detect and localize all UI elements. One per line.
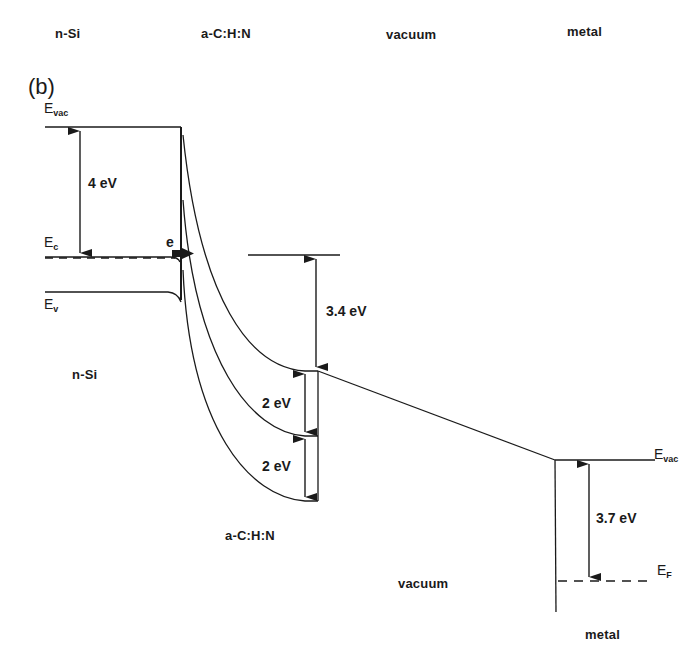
ev-line <box>45 292 181 302</box>
value-3-7ev: 3.7 eV <box>596 510 636 526</box>
region-nsi: n-Si <box>72 367 97 382</box>
acn-curve-top <box>183 135 318 371</box>
value-2ev-lower: 2 eV <box>262 458 291 474</box>
region-acn: a-C:H:N <box>225 528 275 543</box>
metal-surface <box>555 460 556 612</box>
label-ec: Ec <box>44 234 58 252</box>
label-evac-right: Evac <box>654 446 678 464</box>
label-evac-left: Evac <box>44 100 68 118</box>
value-3-4ev: 3.4 eV <box>326 303 366 319</box>
acn-curve-mid <box>183 200 318 436</box>
value-2ev-upper: 2 eV <box>262 395 291 411</box>
region-vacuum: vacuum <box>398 576 448 591</box>
region-metal: metal <box>585 627 620 642</box>
label-electron: e <box>166 234 174 250</box>
label-ef: EF <box>657 562 672 580</box>
vacuum-slope <box>318 371 555 460</box>
label-ev: Ev <box>44 296 58 314</box>
band-diagram <box>0 0 700 651</box>
value-4ev: 4 eV <box>88 175 117 191</box>
acn-curve-bottom <box>183 270 318 501</box>
